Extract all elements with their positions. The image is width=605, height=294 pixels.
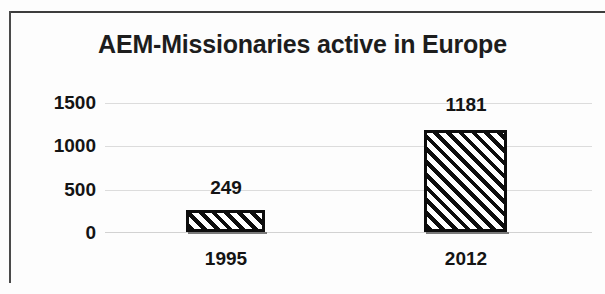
bar-2012-shadow (426, 232, 509, 234)
y-axis: 1500 1000 500 0 (12, 103, 96, 233)
y-tick-label-1500: 1500 (12, 92, 96, 114)
bar-2012 (424, 130, 507, 232)
gridline-1000 (105, 146, 592, 147)
bar-1995 (186, 210, 265, 232)
gridline-500 (105, 190, 592, 191)
y-tick-label-1000: 1000 (12, 135, 96, 157)
category-label-2012: 2012 (445, 248, 487, 270)
gridline-1500 (105, 103, 592, 104)
plot-area (105, 103, 592, 233)
value-label-1995: 249 (210, 177, 242, 199)
y-tick-label-0: 0 (12, 222, 96, 244)
value-label-2012: 1181 (445, 94, 486, 116)
gridline-0 (105, 232, 592, 233)
y-tick-label-500: 500 (12, 179, 96, 201)
chart-title: AEM-Missionaries active in Europe (0, 30, 605, 59)
category-label-1995: 1995 (205, 248, 247, 270)
page-border-top (9, 11, 605, 13)
bar-1995-shadow (188, 232, 267, 234)
chart-screenshot: AEM-Missionaries active in Europe 1500 1… (0, 0, 605, 294)
